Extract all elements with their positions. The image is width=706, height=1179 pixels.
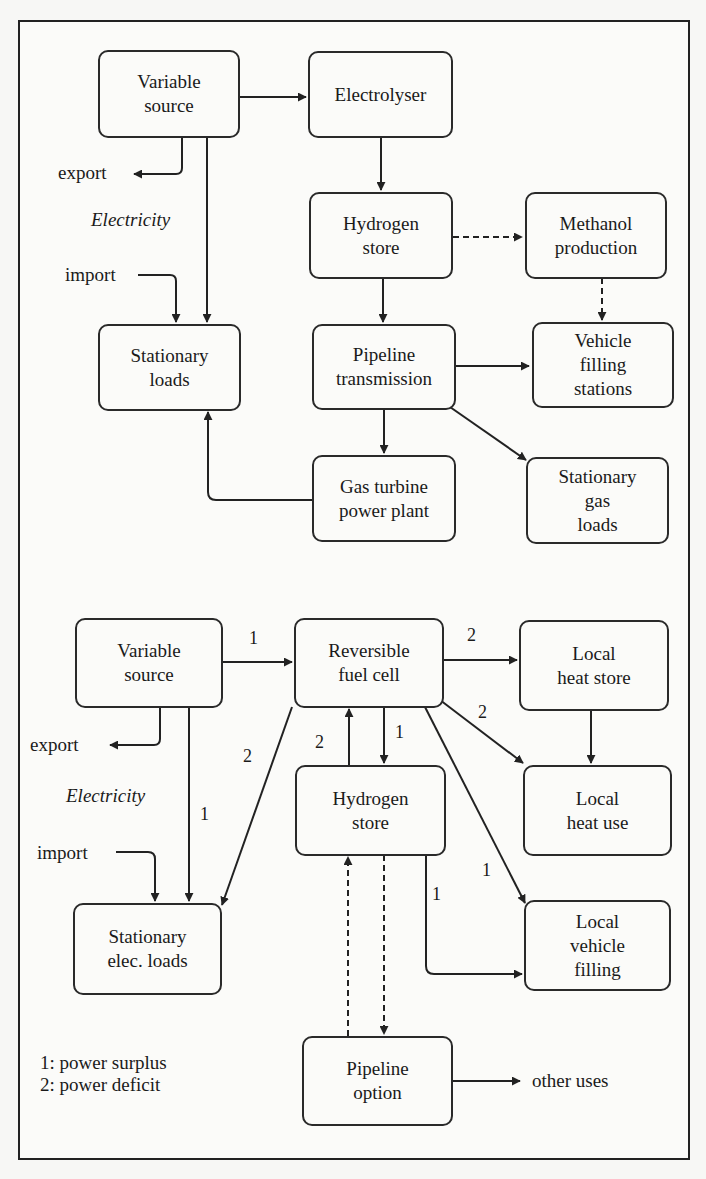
edge-number-h2-vehicle: 1 (432, 884, 441, 904)
node-stationary-loads[interactable]: Stationary loads (98, 324, 241, 411)
edge-number-rfc-h2: 1 (395, 722, 404, 742)
node-pipeline-option[interactable]: Pipeline option (302, 1036, 453, 1126)
node-hydrogen-store-bottom[interactable]: Hydrogen store (295, 765, 446, 856)
edge-number-rfc-heatuse: 2 (478, 702, 487, 722)
node-local-heat-use[interactable]: Local heat use (523, 765, 672, 856)
node-stationary-gas-loads[interactable]: Stationary gas loads (526, 457, 669, 544)
label-electricity-top: Electricity (91, 209, 170, 231)
label-import-top: import (65, 264, 116, 286)
node-local-heat-store[interactable]: Local heat store (519, 620, 669, 711)
edge-number-rfc-heatstore: 2 (467, 625, 476, 645)
label-import-bottom: import (37, 842, 88, 864)
node-local-vehicle-filling[interactable]: Local vehicle filling (524, 900, 671, 991)
legend-power-surplus: 1: power surplus (40, 1052, 167, 1074)
node-gas-turbine-power-plant[interactable]: Gas turbine power plant (312, 455, 456, 542)
node-methanol-production[interactable]: Methanol production (525, 192, 667, 279)
edge-number-rfc-loads: 2 (243, 746, 252, 766)
edge-number-rfc-vehicle: 1 (482, 860, 491, 880)
edge-number-vs-rfc: 1 (249, 628, 258, 648)
label-export-top: export (58, 162, 107, 184)
node-pipeline-transmission[interactable]: Pipeline transmission (312, 324, 456, 410)
node-electrolyser[interactable]: Electrolyser (308, 51, 453, 138)
node-stationary-elec-loads[interactable]: Stationary elec. loads (73, 903, 222, 995)
label-export-bottom: export (30, 734, 79, 756)
label-electricity-bottom: Electricity (66, 785, 145, 807)
node-variable-source-bottom[interactable]: Variable source (75, 618, 223, 708)
node-variable-source-top[interactable]: Variable source (98, 50, 240, 138)
node-reversible-fuel-cell[interactable]: Reversible fuel cell (294, 618, 444, 708)
legend-power-deficit: 2: power deficit (40, 1074, 160, 1096)
node-hydrogen-store-top[interactable]: Hydrogen store (309, 192, 453, 279)
label-other-uses: other uses (532, 1070, 609, 1092)
edge-number-h2-rfc: 2 (315, 732, 324, 752)
node-vehicle-filling-stations[interactable]: Vehicle filling stations (532, 322, 674, 408)
edge-number-vs-loads: 1 (200, 804, 209, 824)
